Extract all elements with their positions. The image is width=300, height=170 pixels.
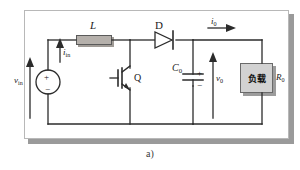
source-plus-sign: +	[44, 73, 49, 82]
output-voltage-label: v0	[216, 74, 223, 84]
capacitor-minus-sign: −	[197, 81, 202, 90]
figure-caption: a)	[0, 148, 300, 159]
vin-arrow-head	[26, 57, 34, 67]
transistor-label: Q	[134, 73, 141, 83]
inductor-label: L	[90, 20, 96, 31]
figure-root: 负载	[0, 0, 300, 170]
input-current-label: iin	[63, 48, 70, 58]
input-voltage-label: vin	[14, 76, 23, 86]
capacitor-plus-sign: +	[197, 69, 202, 78]
transistor-emitter-arrow	[124, 83, 130, 90]
i0-arrow-head	[226, 24, 236, 32]
v0-arrow-head	[209, 52, 217, 62]
diode-label: D	[155, 20, 163, 31]
diode-triangle	[155, 32, 172, 48]
source-minus-sign: −	[45, 85, 50, 94]
transistor-collector-lead	[122, 66, 130, 72]
capacitor-label: C0	[172, 63, 182, 74]
load-resistance-label: R0	[276, 73, 285, 83]
output-current-label: i0	[211, 17, 217, 27]
